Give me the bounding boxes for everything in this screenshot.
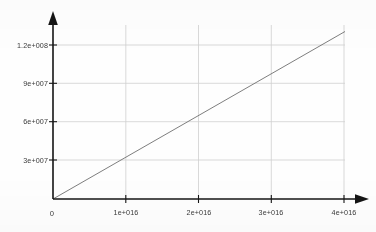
y-axis: [48, 11, 58, 199]
x-axis-arrowhead-icon: [355, 194, 369, 203]
series-1-line: [53, 32, 345, 200]
horizontal-gridlines: [53, 45, 345, 160]
y-axis-arrowhead-icon: [48, 11, 58, 25]
data-series-line: [53, 32, 345, 200]
line-chart: [0, 0, 376, 232]
y-tick-label-9e007: 9e+007: [8, 79, 48, 88]
x-tick-label-0: 0: [41, 209, 63, 218]
x-tick-label-1e016: 1e+016: [101, 208, 151, 217]
x-tick-label-4e016: 4e+016: [319, 208, 369, 217]
y-tick-label-1-2e008: 1.2e+008: [8, 41, 48, 50]
y-tick-label-3e007: 3e+007: [8, 156, 48, 165]
x-tick-label-3e016: 3e+016: [246, 208, 296, 217]
x-axis: [53, 194, 369, 203]
chart-screenshot: 1.2e+008 9e+007 6e+007 3e+007 0 1e+016 2…: [0, 0, 376, 232]
y-tick-label-6e007: 6e+007: [8, 117, 48, 126]
x-tick-label-2e016: 2e+016: [174, 208, 224, 217]
